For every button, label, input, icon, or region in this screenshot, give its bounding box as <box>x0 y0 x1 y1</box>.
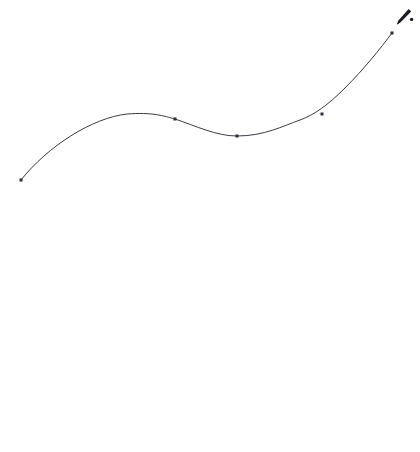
anchor-point[interactable] <box>236 135 239 138</box>
drawing-app-window: p y p <box>0 0 420 452</box>
drawing-canvas[interactable] <box>0 0 420 452</box>
anchor-point[interactable] <box>321 113 324 116</box>
anchor-point[interactable] <box>20 179 23 182</box>
bezier-curve-path[interactable] <box>21 33 392 180</box>
anchor-point[interactable] <box>391 32 394 35</box>
anchor-point[interactable] <box>174 118 177 121</box>
bezier-curve-svg[interactable] <box>0 0 420 452</box>
anchor-point-group[interactable] <box>20 32 394 182</box>
